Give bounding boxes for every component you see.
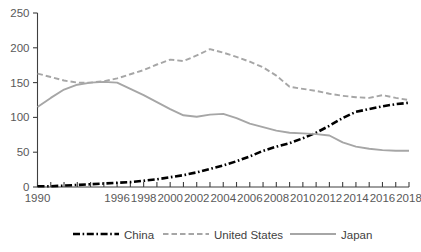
x-axis-tick-label: 2014 <box>343 192 369 204</box>
x-axis-tick-label: 2012 <box>317 192 343 204</box>
legend-label-china: China <box>124 229 155 241</box>
x-axis-tick-label: 2000 <box>157 192 183 204</box>
x-axis-tick-label: 2016 <box>370 192 396 204</box>
series-line-united-states <box>38 49 410 100</box>
line-chart: 050100150200250 199019961998200020022004… <box>0 0 421 252</box>
legend-label-united-states: United States <box>214 229 283 241</box>
y-axis-tick-label: 100 <box>10 111 29 123</box>
chart-plot-area: 050100150200250 199019961998200020022004… <box>0 0 421 252</box>
x-axis-tick-label: 2002 <box>184 192 210 204</box>
x-axis-tick-label: 2006 <box>237 192 263 204</box>
x-axis-tick-labels: 1990199619982000200220042006200820102012… <box>25 192 421 204</box>
legend-label-japan: Japan <box>341 229 372 241</box>
x-axis-tick-label: 2018 <box>396 192 421 204</box>
x-axis-tick-label: 2010 <box>290 192 316 204</box>
y-axis-tick-label: 200 <box>10 42 29 54</box>
y-axis-tick-label: 50 <box>17 146 30 158</box>
series-line-china <box>38 103 410 187</box>
chart-series-group <box>38 49 410 186</box>
x-axis-tick-label: 1996 <box>104 192 130 204</box>
y-axis-tick-marks <box>33 13 38 187</box>
series-line-japan <box>38 82 410 151</box>
x-axis-tick-label: 2004 <box>210 192 236 204</box>
x-axis-tick-label: 2008 <box>264 192 290 204</box>
y-axis-tick-label: 150 <box>10 77 29 89</box>
x-axis-tick-label: 1990 <box>25 192 51 204</box>
chart-legend: ChinaUnited StatesJapan <box>73 229 372 241</box>
y-axis-tick-label: 250 <box>10 7 29 19</box>
y-axis-tick-labels: 050100150200250 <box>10 7 29 193</box>
x-axis-tick-label: 1998 <box>131 192 157 204</box>
